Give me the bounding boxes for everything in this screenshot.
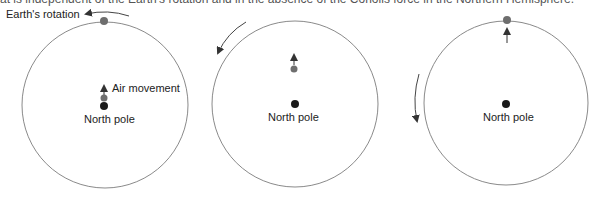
rotation-arrow-icon [218,22,246,53]
rotation-arrow-icon [86,12,129,16]
north-pole-label: North pole [84,113,135,125]
panel-3: North pole [415,16,588,185]
north-pole-label: North pole [268,111,319,123]
panel-2: North pole [212,21,378,187]
air-parcel-dot [100,17,108,25]
air-parcel-dot-start [101,95,108,102]
air-parcel-dot [291,66,298,73]
north-pole-dot [502,100,510,108]
rotation-arrow-icon [415,74,419,121]
panel-1: Earth's rotation Air movement North pole [6,8,188,188]
north-pole-dot [291,100,299,108]
air-movement-label: Air movement [112,82,180,94]
rotation-label: Earth's rotation [6,8,80,20]
coriolis-diagram: Earth's rotation Air movement North pole… [0,0,595,197]
air-parcel-dot [503,16,511,24]
north-pole-dot [100,102,108,110]
north-pole-label: North pole [483,111,534,123]
